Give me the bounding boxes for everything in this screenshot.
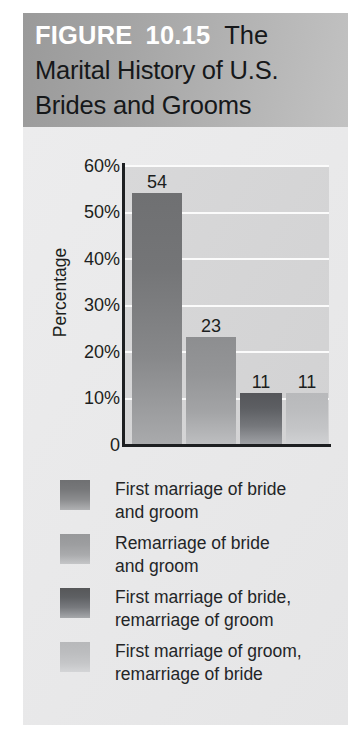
- legend-label-1: First marriage of bride and groom: [115, 478, 286, 523]
- figure-caption-line-2: Marital History of U.S.: [35, 53, 338, 88]
- bar-first-marriage-both: [132, 193, 182, 444]
- figure-container: FIGURE10.15 The Marital History of U.S. …: [0, 0, 356, 739]
- legend-label-2: Remarriage of bride and groom: [115, 532, 270, 577]
- legend-swatch-icon-4: [60, 642, 90, 672]
- x-axis-line: [122, 444, 331, 447]
- figure-label-text: FIGURE: [35, 21, 133, 49]
- y-tick-50: 50%: [48, 203, 120, 221]
- legend-label-3-line-2: remarriage of groom: [115, 609, 291, 632]
- y-tick-10: 10%: [48, 389, 120, 407]
- figure-caption-line-1: FIGURE10.15 The: [35, 18, 338, 53]
- y-tick-40: 40%: [48, 250, 120, 268]
- bar-value-label-2: 23: [186, 317, 236, 335]
- figure-caption-line-3: Brides and Grooms: [35, 88, 338, 123]
- legend-item-first-groom-remarriage-bride: First marriage of groom, remarriage of b…: [23, 640, 348, 685]
- y-axis-tick-labels: 60% 50% 40% 30% 20% 10% 0: [48, 127, 120, 462]
- bar-value-label-4: 11: [286, 373, 328, 391]
- figure-header-banner: FIGURE10.15 The Marital History of U.S. …: [23, 13, 348, 127]
- legend-label-4: First marriage of groom, remarriage of b…: [115, 640, 302, 685]
- legend-label-3-line-1: First marriage of bride,: [115, 586, 291, 609]
- bar-first-bride-remarriage-groom: [240, 393, 282, 444]
- legend-item-first-bride-remarriage-groom: First marriage of bride, remarriage of g…: [23, 586, 348, 631]
- plot-area: [124, 165, 329, 444]
- legend-label-4-line-2: remarriage of bride: [115, 663, 302, 686]
- legend-label-1-line-2: and groom: [115, 501, 286, 524]
- chart-legend: First marriage of bride and groom Remarr…: [23, 478, 348, 694]
- legend-item-remarriage-both: Remarriage of bride and groom: [23, 532, 348, 577]
- legend-label-1-line-1: First marriage of bride: [115, 478, 286, 501]
- bar-value-label-3: 11: [240, 373, 282, 391]
- legend-label-4-line-1: First marriage of groom,: [115, 640, 302, 663]
- legend-swatch-icon-1: [60, 480, 90, 510]
- y-tick-30: 30%: [48, 296, 120, 314]
- legend-swatch-icon-3: [60, 588, 90, 618]
- figure-title-word-the: The: [224, 21, 268, 49]
- y-tick-20: 20%: [48, 343, 120, 361]
- y-axis-line: [122, 163, 125, 446]
- bar-chart: Percentage 60% 50% 40% 30% 20% 10% 0 54 …: [23, 127, 348, 462]
- bar-value-label-1: 54: [132, 173, 182, 191]
- legend-item-first-marriage-both: First marriage of bride and groom: [23, 478, 348, 523]
- legend-label-2-line-2: and groom: [115, 555, 270, 578]
- legend-label-2-line-1: Remarriage of bride: [115, 532, 270, 555]
- gridline-60: [124, 165, 329, 167]
- legend-label-3: First marriage of bride, remarriage of g…: [115, 586, 291, 631]
- legend-swatch-icon-2: [60, 534, 90, 564]
- bar-remarriage-both: [186, 337, 236, 444]
- figure-number-text: 10.15: [146, 21, 211, 49]
- y-tick-60: 60%: [48, 157, 120, 175]
- bar-first-groom-remarriage-bride: [286, 393, 328, 444]
- y-tick-0: 0: [48, 436, 120, 454]
